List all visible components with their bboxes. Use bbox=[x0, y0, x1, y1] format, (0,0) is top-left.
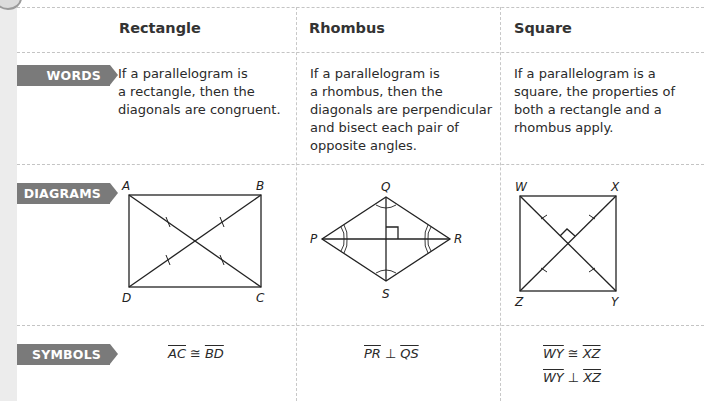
vertex-label: X bbox=[610, 180, 620, 194]
text-line: opposite angles. bbox=[310, 137, 492, 155]
segment: XZ bbox=[583, 346, 601, 361]
words-rectangle: If a parallelogram is a rectangle, then … bbox=[118, 65, 281, 119]
segment: QS bbox=[400, 346, 418, 361]
rhombus-diagram: Q R S P bbox=[310, 175, 480, 310]
left-margin-strip bbox=[0, 0, 17, 401]
divider-header bbox=[17, 52, 704, 53]
segment: XZ bbox=[583, 370, 601, 385]
words-square: If a parallelogram is a square, the prop… bbox=[514, 65, 675, 137]
vertex-label: C bbox=[256, 291, 265, 305]
text-line: If a parallelogram is bbox=[118, 65, 281, 83]
vertex-label: B bbox=[256, 179, 264, 193]
divider-words bbox=[17, 164, 704, 165]
symbol-square-2: WY⊥XZ bbox=[543, 370, 601, 385]
text-line: a rhombus, then the bbox=[310, 83, 492, 101]
text-line: and bisect each pair of bbox=[310, 119, 492, 137]
text-line: diagonals are perpendicular bbox=[310, 101, 492, 119]
text-line: square, the properties of bbox=[514, 83, 675, 101]
symbol-rectangle: AC≅BD bbox=[168, 346, 224, 361]
text-line: If a parallelogram is bbox=[310, 65, 492, 83]
symbol-square-1: WY≅XZ bbox=[543, 346, 601, 361]
vertex-label: D bbox=[122, 291, 131, 305]
vertex-label: R bbox=[454, 232, 462, 246]
words-rhombus: If a parallelogram is a rhombus, then th… bbox=[310, 65, 492, 155]
column-divider-1 bbox=[296, 7, 297, 401]
segment: WY bbox=[543, 370, 564, 385]
divider-top bbox=[17, 7, 704, 8]
segment: BD bbox=[205, 346, 224, 361]
row-label-symbols: SYMBOLS bbox=[17, 344, 110, 365]
segment: PR bbox=[364, 346, 381, 361]
square-diagram: W X Y Z bbox=[505, 175, 635, 310]
row-label-words: WORDS bbox=[17, 65, 110, 86]
rectangle-diagram: A B C D bbox=[110, 175, 280, 310]
operator: ⊥ bbox=[568, 370, 579, 385]
column-header-rectangle: Rectangle bbox=[119, 20, 201, 36]
text-line: both a rectangle and a bbox=[514, 101, 675, 119]
column-divider-2 bbox=[500, 7, 501, 401]
vertex-label: S bbox=[382, 287, 390, 301]
operator: ≅ bbox=[568, 346, 579, 361]
column-header-square: Square bbox=[514, 20, 572, 36]
vertex-label: P bbox=[310, 232, 318, 246]
column-header-rhombus: Rhombus bbox=[309, 20, 385, 36]
vertex-label: Q bbox=[381, 180, 390, 194]
vertex-label: Y bbox=[611, 295, 620, 309]
text-line: rhombus apply. bbox=[514, 119, 675, 137]
symbol-rhombus: PR⊥QS bbox=[364, 346, 419, 361]
row-label-diagrams: DIAGRAMS bbox=[17, 183, 110, 204]
vertex-label: A bbox=[121, 179, 130, 193]
segment: AC bbox=[168, 346, 186, 361]
operator: ≅ bbox=[190, 346, 201, 361]
divider-diagrams bbox=[17, 325, 704, 326]
vertex-label: W bbox=[515, 180, 528, 194]
corner-badge bbox=[0, 0, 22, 10]
text-line: a rectangle, then the bbox=[118, 83, 281, 101]
segment: WY bbox=[543, 346, 564, 361]
vertex-label: Z bbox=[514, 295, 524, 309]
text-line: diagonals are congruent. bbox=[118, 101, 281, 119]
operator: ⊥ bbox=[385, 346, 396, 361]
text-line: If a parallelogram is a bbox=[514, 65, 675, 83]
